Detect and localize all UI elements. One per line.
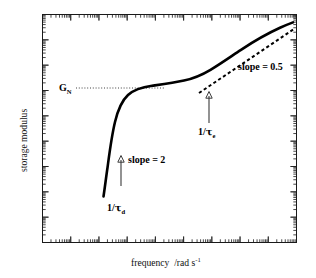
slope-two-label: slope = 2 [128, 154, 165, 165]
x-axis-label-units: /rad s [174, 257, 195, 268]
y-axis-label-text: storage modulus [18, 109, 29, 172]
tau-e-subscript: e [213, 132, 216, 139]
figure-background [0, 0, 316, 278]
x-axis-label-exponent: -1 [195, 256, 201, 263]
y-axis-label: storage modulus [18, 109, 29, 172]
storage-modulus-chart: GN slope = 2 slope = 0.5 1/τe 1/τd frequ… [0, 0, 316, 278]
plateau-label-subscript: N [67, 88, 72, 95]
figure-container: GN slope = 2 slope = 0.5 1/τe 1/τd frequ… [0, 0, 316, 278]
x-axis-label-main: frequency [131, 257, 170, 268]
x-axis-label: frequency /rad s-1 [131, 256, 201, 268]
slope-half-annotation: slope = 0.5 [238, 61, 283, 72]
slope-half-label: slope = 0.5 [238, 61, 283, 72]
svg-text:frequency /rad s-1: frequency /rad s-1 [131, 256, 201, 268]
tau-d-subscript: d [122, 208, 126, 215]
